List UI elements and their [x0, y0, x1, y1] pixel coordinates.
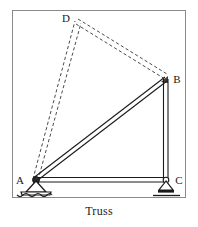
joint-label-B: B — [173, 73, 180, 85]
figure-border — [13, 11, 186, 198]
joint-label-C: C — [175, 174, 182, 186]
truss-figure: A B C D Truss — [0, 0, 198, 227]
joint-label-D: D — [62, 12, 70, 24]
truss-diagram: A B C D — [0, 0, 198, 227]
figure-caption: Truss — [0, 204, 198, 219]
joint-label-A: A — [16, 174, 24, 186]
